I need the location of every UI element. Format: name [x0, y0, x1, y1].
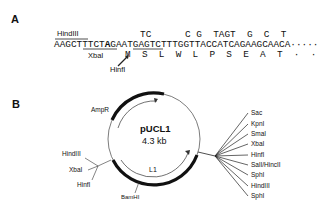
- mcs-line-2: [215, 134, 248, 156]
- bamhi-tick: [135, 182, 139, 193]
- mcs-line-0: [215, 113, 248, 156]
- left-fan-hindiii: [85, 158, 98, 166]
- diagram-graphics: [0, 0, 336, 210]
- mcs-site-6: SphI: [251, 171, 264, 178]
- left-site-xbai: XbaI: [69, 166, 82, 173]
- ampr-arrow-head: [154, 98, 158, 103]
- mcs-line-6: [215, 156, 248, 175]
- mcs-site-0: Sac: [251, 109, 262, 116]
- left-site-hindiii: HindIII: [62, 150, 81, 157]
- left-site-hinfi: HinfI: [77, 181, 90, 188]
- mcs-site-2: SmaI: [251, 130, 266, 137]
- mcs-site-4: HinfI: [251, 151, 264, 158]
- panel-b-label: B: [12, 98, 20, 110]
- mcs-site-3: XbaI: [251, 140, 264, 147]
- mcs-site-7: HindIII: [251, 182, 270, 189]
- l1-arrow: [121, 153, 188, 177]
- mcs-line-8: [215, 156, 248, 196]
- plasmid-size: 4.3 kb: [142, 136, 167, 146]
- mcs-site-1: KpnI: [251, 120, 264, 127]
- bamhi-label: BamHI: [121, 194, 139, 200]
- left-fan-stem: [98, 160, 111, 166]
- mcs-line-1: [215, 124, 248, 156]
- mcs-line-4: [215, 155, 248, 156]
- ampr-arc: [112, 93, 164, 120]
- plasmid-name: pUCL1: [140, 123, 171, 134]
- l1-label: L1: [149, 166, 157, 173]
- ampr-label: AmpR: [91, 106, 109, 113]
- mcs-site-8: SphI: [251, 192, 264, 199]
- right-fan-stem: [198, 152, 215, 156]
- mcs-site-5: SalI/HincII: [251, 161, 281, 168]
